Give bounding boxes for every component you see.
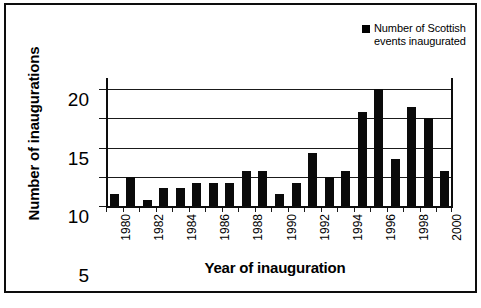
bar (209, 183, 218, 206)
x-axis-tick (238, 208, 239, 212)
plot-area: 05101520 (106, 78, 453, 208)
gridline (106, 118, 453, 119)
x-axis-tick (370, 208, 371, 212)
x-axis-tick (172, 208, 173, 212)
x-axis-tick-label: 1990 (285, 214, 299, 241)
gridline (106, 148, 453, 149)
x-axis-tick (451, 208, 452, 212)
bar (308, 153, 317, 206)
x-axis-tick (189, 208, 190, 212)
x-axis-tick-label: 1996 (384, 214, 398, 241)
x-axis-tick-label: 1992 (318, 214, 332, 241)
bar (358, 112, 367, 206)
x-axis-tick (304, 208, 305, 212)
x-axis-tick (255, 208, 256, 212)
chart-figure: Number of Scottish events inaugurated Nu… (0, 0, 481, 308)
x-axis-tick (436, 208, 437, 212)
x-axis-tick (420, 208, 421, 212)
x-axis-tick-label: 1980 (119, 214, 133, 241)
bar (341, 171, 350, 206)
gridline (106, 177, 453, 178)
x-axis-tick-label: 1998 (417, 214, 431, 241)
chart-legend: Number of Scottish events inaugurated (362, 22, 467, 47)
bar (159, 188, 168, 206)
bar (407, 107, 416, 206)
bar (225, 183, 234, 206)
x-axis-tick (337, 208, 338, 212)
x-axis-tick (321, 208, 322, 212)
bar (424, 118, 433, 206)
x-axis-tick (403, 208, 404, 212)
x-axis-tick (156, 208, 157, 212)
bar (292, 183, 301, 206)
bar (374, 89, 383, 206)
x-axis-tick-label: 1984 (185, 214, 199, 241)
legend-label: Number of Scottish events inaugurated (374, 22, 467, 47)
plot-right-spine (451, 78, 453, 208)
bar (110, 194, 119, 206)
x-axis-title: Year of inauguration (100, 259, 450, 276)
x-axis-tick (271, 208, 272, 212)
x-axis-tick (205, 208, 206, 212)
y-axis-tick-label: 10 (68, 206, 89, 228)
bar (176, 188, 185, 206)
y-axis-tick-label: 20 (68, 89, 89, 111)
x-axis-tick-label: 1994 (351, 214, 365, 241)
bar (192, 183, 201, 206)
x-axis-tick (222, 208, 223, 212)
x-axis-tick-label: 2000 (450, 214, 464, 241)
x-axis-tick (288, 208, 289, 212)
y-axis-tick-label: 15 (68, 148, 89, 170)
x-axis-tick (106, 208, 107, 212)
legend-swatch-icon (362, 25, 370, 33)
x-axis-tick-label: 1982 (152, 214, 166, 241)
bar (440, 171, 449, 206)
x-axis-tick-label: 1988 (251, 214, 265, 241)
gridline (106, 89, 453, 90)
bar (275, 194, 284, 206)
bar (391, 159, 400, 206)
x-axis-tick (139, 208, 140, 212)
y-axis-line (106, 78, 108, 208)
x-axis-tick-label: 1986 (218, 214, 232, 241)
x-axis-tick-labels: 1980198219841986198819901992199419961998… (106, 214, 453, 258)
bar (258, 171, 267, 206)
x-axis-line (106, 206, 453, 208)
bar (242, 171, 251, 206)
bar (325, 177, 334, 206)
x-axis-tick (123, 208, 124, 212)
x-axis-tick (387, 208, 388, 212)
x-axis-tick (354, 208, 355, 212)
bar (126, 177, 135, 206)
y-axis-tick-label: 5 (78, 265, 89, 287)
y-axis-title: Number of inaugurations (25, 39, 42, 229)
